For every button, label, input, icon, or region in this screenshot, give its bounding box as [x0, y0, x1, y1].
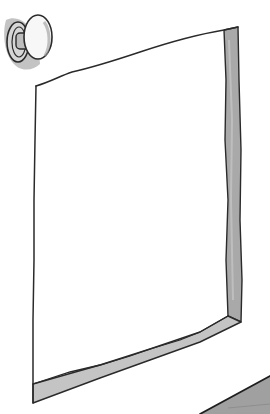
round-knob-icon — [4, 15, 52, 70]
diagonal-edge-icon — [200, 376, 270, 414]
rectangular-frame-icon — [33, 27, 242, 403]
sketch-illustration: Hand-drawn grayscale sketch of an empty … — [0, 0, 270, 414]
